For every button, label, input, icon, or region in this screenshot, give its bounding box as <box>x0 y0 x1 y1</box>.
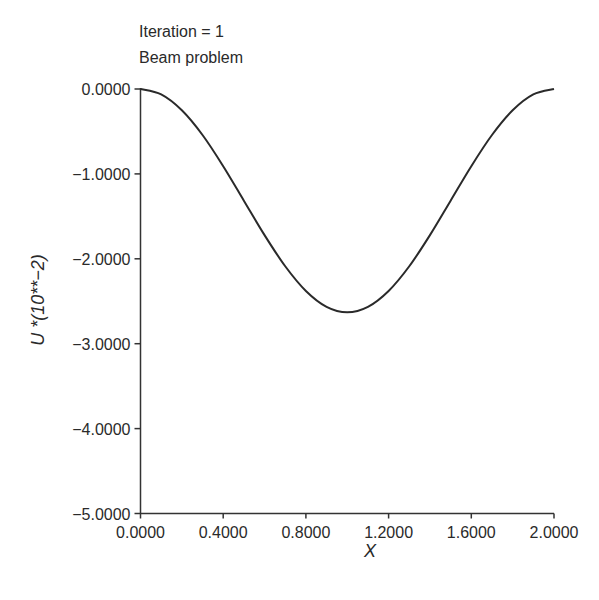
x-tick-label: 0.8000 <box>281 524 330 541</box>
annotation-iteration: Iteration = 1 <box>139 23 224 40</box>
axes: 0.0000−1.0000−2.0000−3.0000−4.0000−5.000… <box>72 81 578 541</box>
y-ticks: 0.0000−1.0000−2.0000−3.0000−4.0000−5.000… <box>72 81 140 523</box>
x-ticks: 0.00000.40000.80001.20001.60002.0000 <box>116 514 579 541</box>
y-tick-label: −1.0000 <box>72 166 130 183</box>
chart: Iteration = 1 Beam problem 0.0000−1.0000… <box>0 0 599 600</box>
y-tick-label: −5.0000 <box>72 506 130 523</box>
x-tick-label: 1.6000 <box>447 524 496 541</box>
y-tick-label: −2.0000 <box>72 251 130 268</box>
series-line-u <box>141 89 555 312</box>
x-tick-label: 0.4000 <box>199 524 248 541</box>
x-tick-label: 0.0000 <box>116 524 165 541</box>
annotation-problem: Beam problem <box>139 49 243 66</box>
y-tick-label: 0.0000 <box>82 81 131 98</box>
y-tick-label: −3.0000 <box>72 336 130 353</box>
x-tick-label: 2.0000 <box>530 524 579 541</box>
y-tick-label: −4.0000 <box>72 421 130 438</box>
x-tick-label: 1.2000 <box>364 524 413 541</box>
x-axis-title: X <box>363 541 377 561</box>
y-axis-title: U *(10**−2) <box>28 254 48 346</box>
